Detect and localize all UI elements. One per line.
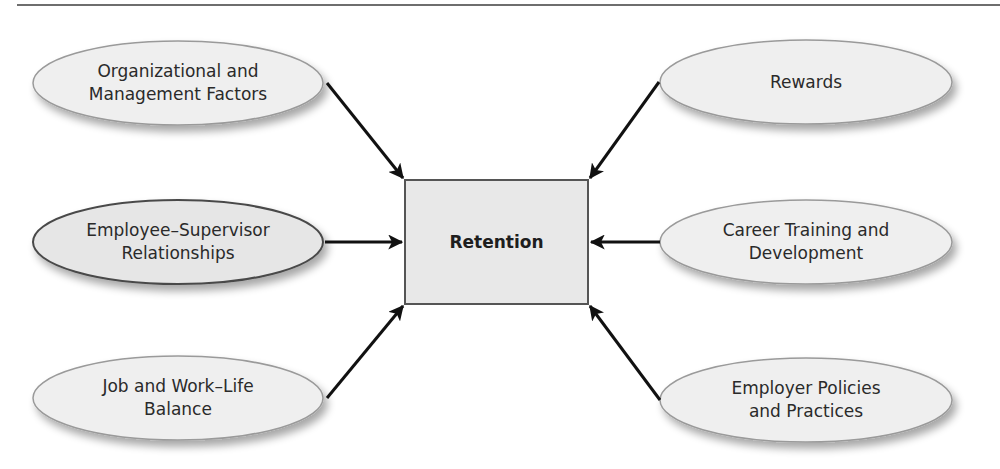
arrow-job xyxy=(327,306,403,398)
arrow-rew xyxy=(590,82,659,178)
arrow-pol xyxy=(590,306,660,400)
factor-label-pol: Employer Policies and Practices xyxy=(660,358,952,442)
factor-label-job: Job and Work–Life Balance xyxy=(33,356,323,440)
factor-label-emp: Employee–Supervisor Relationships xyxy=(33,200,323,284)
retention-label: Retention xyxy=(405,180,588,304)
factor-label-org: Organizational and Management Factors xyxy=(33,41,323,125)
factor-label-rew: Rewards xyxy=(660,40,952,124)
arrow-org xyxy=(327,83,403,178)
factor-label-car: Career Training and Development xyxy=(660,200,952,284)
